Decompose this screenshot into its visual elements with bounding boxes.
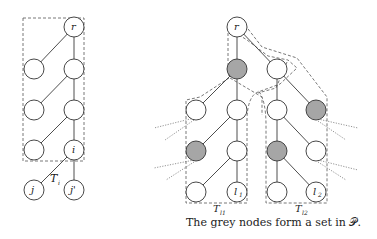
l1-subscript: 1 xyxy=(239,191,243,198)
left-tree: r i j j' T i xyxy=(23,17,84,200)
subtree-label-subscript: i xyxy=(58,179,60,186)
dotted-edge xyxy=(318,160,358,170)
dotted-edge xyxy=(165,120,194,140)
l1-label: l xyxy=(234,186,237,197)
tree-figure: r i j j' T i xyxy=(0,0,377,239)
dotted-edge xyxy=(154,118,194,128)
subtree-label-tl2-subscript: l2 xyxy=(302,209,308,216)
dotted-edge xyxy=(318,121,346,140)
node-grey xyxy=(186,141,206,161)
dotted-edge xyxy=(318,119,358,128)
i-label: i xyxy=(72,144,75,155)
node-grey xyxy=(306,100,326,120)
node xyxy=(64,100,84,120)
node xyxy=(306,141,326,161)
node xyxy=(267,59,287,79)
node xyxy=(24,59,44,79)
node xyxy=(64,59,84,79)
subtree-label-tl1-subscript: l1 xyxy=(220,209,226,216)
diagram-svg: r i j j' T i xyxy=(0,0,377,239)
node xyxy=(24,140,44,160)
right-tree: r l 1 l 2 T l1 T l2 The grey nodes form … xyxy=(154,17,361,229)
node xyxy=(227,141,247,161)
node xyxy=(227,100,247,120)
dotted-edge xyxy=(318,162,346,180)
j-prime-label: j' xyxy=(68,184,76,195)
node-grey xyxy=(267,141,287,161)
node-grey xyxy=(227,59,247,79)
node xyxy=(24,100,44,120)
l2-label: l xyxy=(313,186,316,197)
l2-subscript: 2 xyxy=(317,191,322,198)
figure-caption: The grey nodes form a set in 𝒫. xyxy=(186,216,361,229)
node xyxy=(267,182,287,202)
dotted-edge xyxy=(154,160,194,168)
node xyxy=(186,182,206,202)
node xyxy=(267,100,287,120)
node xyxy=(186,100,206,120)
